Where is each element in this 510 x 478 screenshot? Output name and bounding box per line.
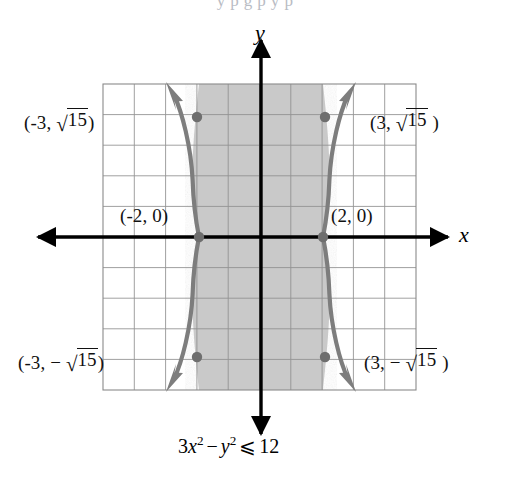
hyperbola-inequality-figure: y p g p y p (0, 0, 510, 478)
radical-sqrt15-a: √15 (56, 108, 88, 135)
label-neg3-negsqrt15: (-3, − √15) (18, 348, 104, 375)
equation-minus: − (203, 435, 220, 457)
radical-sqrt15-b: √15 (396, 108, 428, 135)
equation-coefficient: 3 (178, 435, 188, 457)
label-3-sqrt15-close: ) (432, 112, 438, 133)
x-axis-label: x (459, 224, 469, 246)
point-neg3-sqrt15 (192, 112, 202, 122)
label-neg3-negsqrt15-x: -3, (24, 352, 45, 373)
equation-value: 12 (259, 435, 279, 457)
radical-sqrt15-d: √15 (405, 348, 437, 375)
equation-y-var: y (221, 435, 230, 457)
label-3-negsqrt15-sign: − (390, 352, 401, 373)
y-axis-label: y (255, 22, 265, 44)
label-3-sqrt15: (3, √15 ) (370, 108, 439, 135)
equation-relation: ⩽ (236, 435, 259, 457)
radicand-c: 15 (77, 348, 98, 369)
label-neg3-sqrt15-x: -3, (30, 112, 51, 133)
point-neg3-negsqrt15 (192, 352, 202, 362)
label-neg3-sqrt15: (-3, √15) (24, 108, 94, 135)
label-3-negsqrt15-x: 3, (370, 352, 384, 373)
equation-x-var: x (188, 435, 197, 457)
label-neg2-0: (-2, 0) (120, 206, 168, 225)
label-2-0: (2, 0) (331, 206, 373, 225)
graph-canvas (0, 0, 510, 478)
point-2-0 (318, 232, 328, 242)
label-neg3-sqrt15-close: ) (88, 112, 94, 133)
point-3-sqrt15 (320, 112, 330, 122)
label-neg3-negsqrt15-close: ) (98, 352, 104, 373)
point-neg2-0 (194, 232, 204, 242)
radicand-a: 15 (67, 108, 88, 129)
label-3-negsqrt15-close: ) (442, 352, 448, 373)
radical-sqrt15-c: √15 (66, 348, 98, 375)
label-neg3-negsqrt15-sign: − (50, 352, 61, 373)
point-3-negsqrt15 (320, 352, 330, 362)
radicand-d: 15 (416, 348, 437, 369)
inequality-equation: 3x2−y2⩽12 (178, 434, 279, 458)
label-3-negsqrt15: (3, − √15 ) (364, 348, 449, 375)
radicand-b: 15 (406, 108, 427, 129)
label-3-sqrt15-x: 3, (376, 112, 390, 133)
